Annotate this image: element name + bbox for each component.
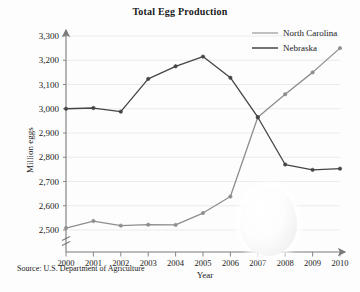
data-point <box>147 223 150 226</box>
y-tick-label: 3,000 <box>39 104 60 114</box>
x-tick-label: 2010 <box>332 258 349 268</box>
data-point <box>311 71 314 74</box>
x-tick-label: 2009 <box>304 258 321 268</box>
y-tick-label: 2,500 <box>39 225 60 235</box>
y-tick-label: 2,700 <box>39 177 60 187</box>
data-point <box>147 77 150 80</box>
data-point <box>284 93 287 96</box>
x-tick-label: 2005 <box>195 258 212 268</box>
data-point <box>119 110 122 113</box>
data-point <box>229 76 232 79</box>
data-point <box>64 107 67 110</box>
data-point <box>64 226 67 229</box>
series-group <box>64 46 341 229</box>
legend: North CarolinaNebraska <box>252 28 337 53</box>
y-tick-label: 2,800 <box>39 152 60 162</box>
y-axis-label: Million eggs <box>25 127 35 173</box>
y-tick-label: 3,300 <box>39 31 60 41</box>
x-tick-label: 2006 <box>222 258 239 268</box>
y-tick-label: 3,100 <box>39 80 60 90</box>
data-point <box>229 195 232 198</box>
axis-lines-group <box>62 30 345 255</box>
data-point <box>338 46 341 49</box>
series-line-nebraska <box>66 57 340 170</box>
data-point <box>92 106 95 109</box>
y-tick-label: 3,200 <box>39 55 60 65</box>
legend-label-nebraska: Nebraska <box>283 43 317 53</box>
y-tick-labels-group: 2,5002,6002,7002,8002,9003,0003,1003,200… <box>39 31 60 235</box>
y-tick-label: 2,600 <box>39 201 60 211</box>
x-tickmarks-group <box>66 252 340 257</box>
x-tick-label: 2004 <box>167 258 185 268</box>
x-tick-label: 2007 <box>249 258 266 268</box>
chart-page: Total Egg Production 2,5002,6002,7002,80… <box>0 0 360 292</box>
x-tick-label: 2008 <box>277 258 294 268</box>
data-point <box>338 167 341 170</box>
data-point <box>311 168 314 171</box>
source-note: Source: U.S. Department of Agriculture <box>17 264 145 273</box>
line-chart: 2,5002,6002,7002,8002,9003,0003,1003,200… <box>0 0 360 292</box>
gridlines-group <box>66 36 340 230</box>
data-point <box>201 211 204 214</box>
series-line-north-carolina <box>66 48 340 228</box>
legend-label-north-carolina: North Carolina <box>283 28 337 38</box>
data-point <box>174 65 177 68</box>
data-point <box>256 116 259 119</box>
x-axis-label: Year <box>197 270 214 280</box>
data-point <box>119 224 122 227</box>
data-point <box>201 55 204 58</box>
data-point <box>284 163 287 166</box>
data-point <box>92 219 95 222</box>
y-tick-label: 2,900 <box>39 128 60 138</box>
data-point <box>174 223 177 226</box>
